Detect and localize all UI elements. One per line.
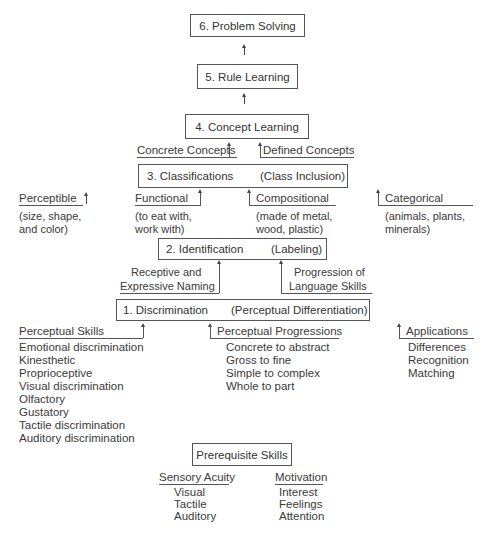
prerequisite-label: Prerequisite Skills xyxy=(196,449,287,461)
perceptible-heading: Perceptible xyxy=(19,192,83,206)
sensory-acuity-list: Visual Tactile Auditory xyxy=(174,486,216,522)
list-item: Interest xyxy=(279,486,324,498)
arrow-up-icon xyxy=(86,195,87,204)
arrow-up-icon xyxy=(244,96,245,104)
functional-desc-1: (to eat with, xyxy=(135,210,192,223)
list-item: Recognition xyxy=(408,354,469,367)
level-3-label: 3. Classifications xyxy=(147,170,233,182)
language-line-1: Progression of xyxy=(294,266,365,279)
arrow-up-icon xyxy=(229,145,230,146)
prerequisite-skills-box: Prerequisite Skills xyxy=(192,443,292,466)
applications-list: Differences Recognition Matching xyxy=(408,341,469,380)
list-item: Attention xyxy=(279,510,324,522)
level-4-concept-learning-box: 4. Concept Learning xyxy=(185,114,309,139)
arrow-up-icon xyxy=(219,263,220,264)
compositional-heading: Compositional xyxy=(249,192,336,206)
applications-heading: Applications xyxy=(399,325,474,339)
concrete-concepts-label: Concrete Concepts xyxy=(137,144,237,158)
list-item: Visual discrimination xyxy=(19,380,144,393)
arrow-up-icon xyxy=(281,263,282,264)
list-item: Auditory xyxy=(174,510,216,522)
motivation-list: Interest Feelings Attention xyxy=(279,486,324,522)
categorical-desc-2: minerals) xyxy=(385,223,430,236)
level-5-label: 5. Rule Learning xyxy=(205,71,289,83)
level-1-sublabel: (Perceptual Differentiation) xyxy=(231,304,368,316)
level-4-label: 4. Concept Learning xyxy=(195,121,299,133)
list-item: Tactile xyxy=(174,498,216,510)
level-6-problem-solving-box: 6. Problem Solving xyxy=(190,14,305,37)
defined-concepts-label: Defined Concepts xyxy=(260,144,354,158)
perceptual-progressions-list: Concrete to abstract Gross to fine Simpl… xyxy=(226,341,330,393)
list-item: Visual xyxy=(174,486,216,498)
level-2-label: 2. Identification xyxy=(166,243,243,255)
list-item: Proprioceptive xyxy=(19,367,144,380)
list-item: Tactile discrimination xyxy=(19,419,144,432)
categorical-heading: Categorical xyxy=(378,192,473,206)
compositional-desc-1: (made of metal, xyxy=(256,210,332,223)
level-3-classifications-box: 3. Classifications (Class Inclusion) xyxy=(138,164,348,188)
receptive-connector xyxy=(219,263,220,293)
arrow-up-icon xyxy=(200,192,201,193)
perceptual-skills-heading: Perceptual Skills xyxy=(19,325,143,339)
list-item: Emotional discrimination xyxy=(19,341,144,354)
level-1-label: 1. Discrimination xyxy=(123,304,208,316)
motivation-heading: Motivation xyxy=(275,471,323,485)
level-2-sublabel: (Labeling) xyxy=(271,243,322,255)
compositional-desc-2: wood, plastic) xyxy=(256,223,323,236)
level-1-discrimination-box: 1. Discrimination (Perceptual Differenti… xyxy=(116,299,370,321)
arrow-up-icon xyxy=(244,47,245,55)
perceptible-desc-2: and color) xyxy=(19,223,68,236)
list-item: Olfactory xyxy=(19,393,144,406)
level-5-rule-learning-box: 5. Rule Learning xyxy=(197,64,298,89)
level-2-identification-box: 2. Identification (Labeling) xyxy=(158,238,327,260)
concrete-concepts-connector xyxy=(229,145,230,158)
perceptual-skills-list: Emotional discrimination Kinesthetic Pro… xyxy=(19,341,144,445)
list-item: Differences xyxy=(408,341,469,354)
categorical-desc-1: (animals, plants, xyxy=(385,210,465,223)
receptive-line-1: Receptive and xyxy=(131,266,201,279)
receptive-line-2: Expressive Naming xyxy=(120,280,219,294)
list-item: Concrete to abstract xyxy=(226,341,330,354)
list-item: Whole to part xyxy=(226,380,330,393)
level-6-label: 6. Problem Solving xyxy=(199,20,296,32)
functional-connector xyxy=(200,192,201,206)
list-item: Gustatory xyxy=(19,406,144,419)
list-item: Kinesthetic xyxy=(19,354,144,367)
sensory-acuity-heading: Sensory Acuity xyxy=(159,471,229,485)
functional-desc-2: work with) xyxy=(135,223,185,236)
level-3-sublabel: (Class Inclusion) xyxy=(260,170,345,182)
list-item: Matching xyxy=(408,367,469,380)
perceptual-skills-connector xyxy=(143,326,144,338)
functional-heading: Functional xyxy=(135,192,201,206)
list-item: Simple to complex xyxy=(226,367,330,380)
list-item: Feelings xyxy=(279,498,324,510)
perceptible-desc-1: (size, shape, xyxy=(19,210,81,223)
perceptual-progressions-heading: Perceptual Progressions xyxy=(210,325,339,339)
list-item: Auditory discrimination xyxy=(19,432,144,445)
language-line-2: Language Skills xyxy=(281,280,372,294)
arrow-up-icon xyxy=(143,326,144,327)
list-item: Gross to fine xyxy=(226,354,330,367)
